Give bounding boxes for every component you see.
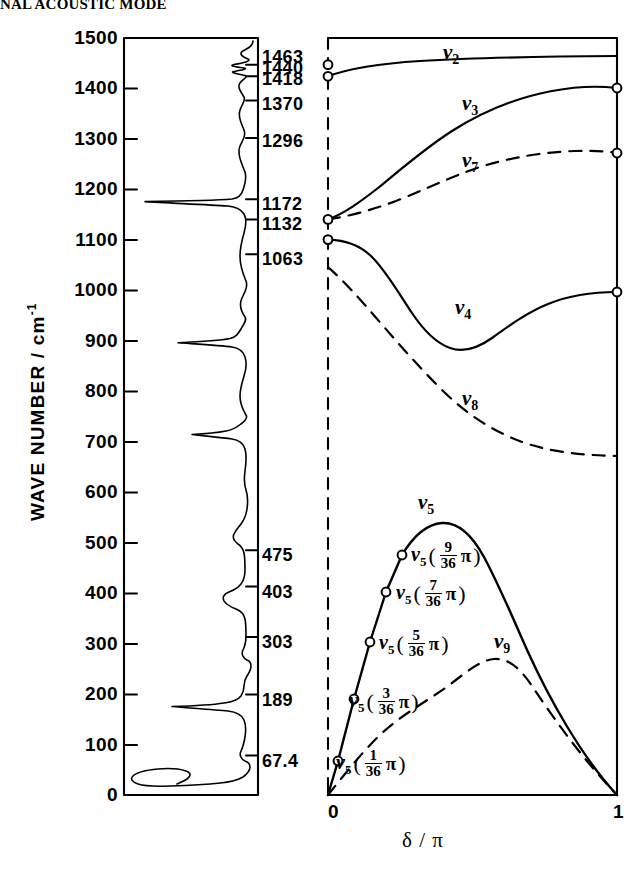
marker-nu5-9-36	[398, 551, 407, 560]
curve-label-nu8: ν8	[462, 388, 478, 413]
marker-left-1440	[324, 72, 333, 81]
sample-label-nu5-1-36: ν5 ( 136 π )	[336, 748, 407, 779]
curve-label-nu4: ν4	[455, 297, 471, 322]
marker-right-nu3	[613, 84, 622, 93]
marker-nu5-5-36	[366, 638, 375, 647]
sample-label-nu5-7-36: ν5 ( 736 π )	[396, 578, 467, 609]
spectrum-panel-frame	[124, 38, 258, 795]
marker-left-1132	[324, 235, 333, 244]
sample-label-nu5-5-36: ν5 ( 536 π )	[379, 628, 450, 659]
curve-nu2	[328, 56, 617, 76]
figure-canvas: NAL ACOUSTIC MODE WAVE NUMBER / cm-1 010…	[0, 0, 644, 877]
spectrum-trace	[132, 41, 253, 786]
spectrum-panel-yticks	[124, 89, 137, 746]
marker-right-nu4	[613, 288, 622, 297]
curve-label-nu3: ν3	[462, 93, 478, 118]
dispersion-panel-xticks	[328, 783, 617, 795]
figure-svg	[0, 0, 644, 877]
curve-label-nu5: ν5	[418, 492, 434, 517]
marker-left-1172	[324, 215, 333, 224]
marker-right-nu7	[613, 149, 622, 158]
curve-label-nu2: ν2	[443, 42, 459, 67]
sample-label-nu5-3-36: ν5 ( 336 π )	[349, 686, 420, 717]
curve-label-nu9: ν9	[494, 631, 510, 656]
observed-band-ticks	[246, 65, 258, 756]
sample-label-nu5-9-36: ν5 ( 936 π )	[411, 540, 482, 571]
curve-nu4	[328, 240, 617, 350]
marker-nu5-7-36	[382, 588, 391, 597]
marker-left-1463	[324, 60, 333, 69]
curve-label-nu7: ν7	[462, 150, 478, 175]
